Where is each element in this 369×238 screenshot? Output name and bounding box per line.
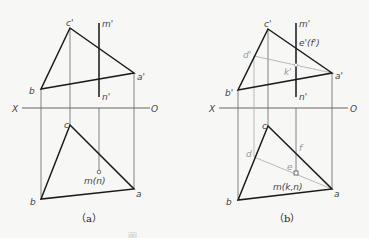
label-x-axis: X xyxy=(208,104,216,114)
point-mkn xyxy=(294,171,298,175)
label-c-prime: c' xyxy=(264,19,271,29)
label-d: d xyxy=(246,149,252,159)
label-n-prime: n' xyxy=(102,92,110,102)
point-mn xyxy=(97,170,101,174)
label-m-n: m(n) xyxy=(84,176,106,186)
label-m-prime: m' xyxy=(102,19,113,29)
label-a: a xyxy=(136,189,142,199)
label-a: a xyxy=(334,189,340,199)
figure-caption: 图 xyxy=(128,232,137,238)
label-b: b xyxy=(30,197,36,207)
label-k-prime: k' xyxy=(284,67,292,77)
label-c: c xyxy=(262,121,267,131)
caption-a: （a） xyxy=(76,213,102,224)
label-e: e xyxy=(287,162,293,172)
label-b: b xyxy=(226,197,232,207)
label-f: f xyxy=(299,143,304,153)
triangle-top-view xyxy=(41,125,134,199)
label-b-upper: b xyxy=(29,86,35,96)
point-k-prime xyxy=(294,63,297,66)
label-a-prime: a' xyxy=(335,71,343,81)
label-d-prime: d' xyxy=(243,50,251,60)
projection-diagram: c' m' a' b n' X O c m(n) b a （a） c' m' xyxy=(0,0,369,238)
label-m-prime: m' xyxy=(299,19,310,29)
diagram-svg: c' m' a' b n' X O c m(n) b a （a） c' m' xyxy=(0,0,369,238)
panel-a: c' m' a' b n' X O c m(n) b a （a） xyxy=(11,18,158,224)
caption-b: （b） xyxy=(274,213,300,224)
label-m-k-n: m(k,n) xyxy=(273,182,303,192)
label-n-prime: n' xyxy=(299,92,307,102)
label-o-axis: O xyxy=(350,104,357,114)
label-c: c xyxy=(64,120,69,130)
label-e-f-prime: e'(f') xyxy=(299,38,320,48)
label-c-prime: c' xyxy=(66,18,73,28)
label-x-axis: X xyxy=(11,104,19,114)
label-a-prime: a' xyxy=(137,72,145,82)
label-b-prime: b' xyxy=(225,88,233,98)
triangle-front-view xyxy=(41,28,134,89)
label-o-axis: O xyxy=(151,104,158,114)
panel-b: c' m' e'(f') d' k' a' b' n' X O c d f e … xyxy=(208,19,357,224)
